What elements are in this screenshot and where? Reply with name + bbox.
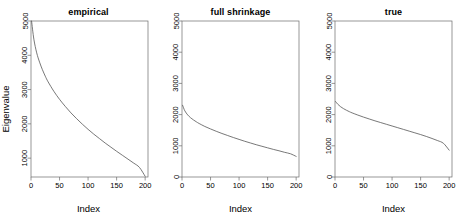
svg-text:150: 150 [261, 181, 274, 190]
svg-text:200: 200 [139, 181, 152, 190]
x-axis-label-true: Index [334, 204, 453, 214]
svg-text:150: 150 [110, 181, 123, 190]
svg-text:0: 0 [172, 175, 181, 179]
eigenvalue-panels-figure: empirical 050100150200100020003000400050… [0, 0, 459, 217]
svg-text:100: 100 [82, 181, 95, 190]
svg-text:4000: 4000 [172, 44, 181, 61]
svg-text:2000: 2000 [21, 116, 30, 133]
svg-text:5000: 5000 [21, 13, 30, 30]
svg-text:4000: 4000 [325, 44, 334, 61]
panel-true: true 050100150200010002000300040005000 I… [306, 0, 459, 217]
svg-text:50: 50 [359, 181, 367, 190]
svg-text:1000: 1000 [172, 137, 181, 154]
svg-text:5000: 5000 [325, 13, 334, 30]
svg-text:0: 0 [29, 181, 33, 190]
svg-text:3000: 3000 [325, 75, 334, 92]
plot-area-empirical: 05010015020010002000300040005000 [0, 0, 153, 217]
svg-text:200: 200 [290, 181, 303, 190]
svg-text:0: 0 [325, 175, 334, 179]
svg-text:200: 200 [443, 181, 456, 190]
svg-text:4000: 4000 [21, 47, 30, 64]
panel-full-shrinkage: full shrinkage 0501001502000100020003000… [153, 0, 306, 217]
plot-area-true: 050100150200010002000300040005000 [306, 0, 459, 217]
y-axis-label-empirical: Eigenvalue [0, 0, 11, 217]
svg-text:2000: 2000 [325, 106, 334, 123]
svg-text:1000: 1000 [21, 150, 30, 167]
svg-text:5000: 5000 [172, 13, 181, 30]
svg-text:100: 100 [233, 181, 246, 190]
svg-text:3000: 3000 [172, 75, 181, 92]
svg-text:0: 0 [180, 181, 184, 190]
panel-empirical: empirical 050100150200100020003000400050… [0, 0, 153, 217]
svg-text:50: 50 [206, 181, 214, 190]
x-axis-label-empirical: Index [30, 204, 147, 214]
svg-text:1000: 1000 [325, 137, 334, 154]
svg-text:100: 100 [386, 181, 399, 190]
plot-area-full-shrinkage: 050100150200010002000300040005000 [153, 0, 306, 217]
svg-text:2000: 2000 [172, 106, 181, 123]
svg-text:150: 150 [414, 181, 427, 190]
svg-text:0: 0 [333, 181, 337, 190]
x-axis-label-full-shrinkage: Index [181, 204, 300, 214]
svg-text:3000: 3000 [21, 81, 30, 98]
svg-text:50: 50 [55, 181, 63, 190]
